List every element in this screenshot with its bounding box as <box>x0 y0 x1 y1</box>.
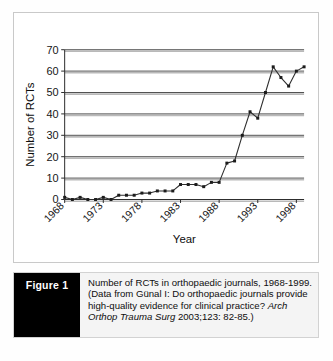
gridlines <box>65 50 304 180</box>
data-series <box>63 65 305 201</box>
y-axis-title: Number of RCTs <box>24 82 36 167</box>
series-point <box>156 189 159 192</box>
series-point <box>256 117 259 120</box>
series-point <box>295 70 298 73</box>
series-point <box>94 198 97 201</box>
series-point <box>117 194 120 197</box>
series-point <box>71 198 74 201</box>
x-tick-label: 1983 <box>158 200 182 224</box>
x-tick-label: 1993 <box>235 200 259 224</box>
x-tick-label: 1988 <box>196 200 220 224</box>
series-point <box>287 85 290 88</box>
figure-caption-block: Figure 1 Number of RCTs in orthopaedic j… <box>13 272 319 338</box>
y-tick-label: 20 <box>47 151 59 163</box>
series-point <box>63 196 66 199</box>
series-point <box>241 134 244 137</box>
series-point <box>148 192 151 195</box>
x-tick-label: 1968 <box>42 200 66 224</box>
series-point <box>194 183 197 186</box>
y-axis-ticks: 010203040506070 <box>47 44 65 206</box>
series-point <box>140 192 143 195</box>
series-point <box>125 194 128 197</box>
y-tick-label: 30 <box>47 129 59 141</box>
series-point <box>303 65 306 68</box>
series-point <box>272 65 275 68</box>
series-point <box>225 162 228 165</box>
x-tick-label: 1973 <box>81 200 105 224</box>
caption-segment-2: 2003;123: 82-85.) <box>175 311 253 322</box>
series-point <box>187 183 190 186</box>
series-point <box>249 110 252 113</box>
figure-number-tag: Figure 1 <box>14 273 80 337</box>
series-point <box>164 189 167 192</box>
series-point <box>133 194 136 197</box>
series-point <box>279 76 282 79</box>
figure-page: 010203040506070 196819731978198319881993… <box>0 0 333 361</box>
y-tick-label: 50 <box>47 86 59 98</box>
series-point <box>179 183 182 186</box>
series-point <box>102 196 105 199</box>
series-point <box>202 185 205 188</box>
figure-caption-text: Number of RCTs in orthopaedic journals, … <box>80 273 318 337</box>
y-tick-label: 60 <box>47 65 59 77</box>
y-tick-label: 70 <box>47 44 59 56</box>
series-point <box>264 91 267 94</box>
series-point <box>171 189 174 192</box>
x-axis-ticks: 1968197319781983198819931998 <box>42 200 298 225</box>
series-point <box>110 198 113 201</box>
y-tick-label: 40 <box>47 108 59 120</box>
y-tick-label: 10 <box>47 172 59 184</box>
chart-canvas: 010203040506070 196819731978198319881993… <box>14 13 318 262</box>
x-tick-label: 1978 <box>119 200 143 224</box>
series-point <box>233 159 236 162</box>
series-point <box>86 198 89 201</box>
series-point <box>218 181 221 184</box>
x-tick-label: 1998 <box>274 200 298 224</box>
x-axis-title: Year <box>173 233 196 245</box>
line-chart: 010203040506070 196819731978198319881993… <box>14 13 318 262</box>
series-point <box>210 181 213 184</box>
figure-frame: 010203040506070 196819731978198319881993… <box>13 12 319 263</box>
series-point <box>79 196 82 199</box>
